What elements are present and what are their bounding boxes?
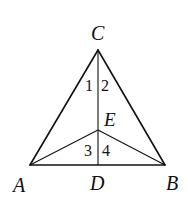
angle-label-3: 3 [84,142,92,159]
angle-label-1: 1 [85,77,93,94]
point-label-D: D [89,172,105,194]
point-label-B: B [166,172,178,194]
point-label-C: C [91,22,105,44]
point-label-A: A [11,174,26,196]
point-label-E: E [103,109,116,130]
angle-label-4: 4 [102,142,110,159]
angle-label-2: 2 [101,77,109,94]
triangle-diagram: C A D B E 1 2 3 4 [0,0,188,209]
